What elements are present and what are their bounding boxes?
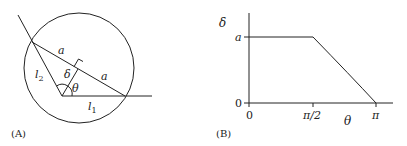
y-tick-label-a: a xyxy=(235,31,242,44)
x-axis-label: θ xyxy=(344,114,352,128)
label-delta: δ xyxy=(64,68,71,81)
x-tick-label-pi-half: π/2 xyxy=(302,109,321,122)
figure-svg: a a l2 l1 δ θ (A) δ a 0 0 π/2 π θ (B) xyxy=(0,0,407,146)
label-theta: θ xyxy=(72,82,79,95)
figure: a a l2 l1 δ θ (A) δ a 0 0 π/2 π θ (B) xyxy=(0,0,407,146)
y-axis-label: δ xyxy=(219,16,226,30)
label-a-lower: a xyxy=(101,70,108,83)
right-angle-marker xyxy=(74,59,83,67)
label-l2: l2 xyxy=(35,68,44,83)
panel-a-label: (A) xyxy=(11,128,26,139)
delta-curve xyxy=(249,37,376,103)
x-tick-label-0: 0 xyxy=(246,109,253,122)
panel-b-plot xyxy=(244,13,393,107)
panel-b-label: (B) xyxy=(216,128,231,139)
x-tick-label-pi: π xyxy=(371,109,380,122)
label-a-upper: a xyxy=(58,44,65,57)
label-l1: l1 xyxy=(88,100,97,115)
circle xyxy=(24,13,134,123)
y-tick-label-0: 0 xyxy=(235,97,242,110)
